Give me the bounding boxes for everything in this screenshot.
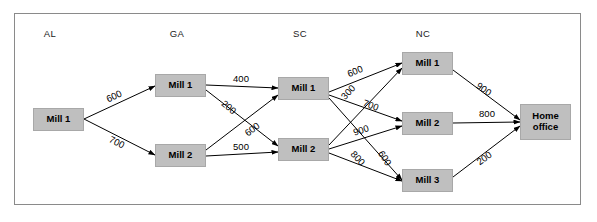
edge-nc2-home bbox=[453, 122, 520, 123]
edge-label-ga1-sc1: 400 bbox=[233, 73, 249, 84]
edge-label-ga2-sc2: 500 bbox=[233, 141, 249, 152]
node-sc-mill-1[interactable]: Mill 1 bbox=[278, 77, 329, 100]
edge-ga1-sc2 bbox=[206, 90, 278, 146]
node-sc-mill-2[interactable]: Mill 2 bbox=[278, 138, 329, 161]
edge-label-nc2-home: 800 bbox=[479, 108, 495, 119]
column-header-ga: GA bbox=[170, 28, 185, 39]
node-al-mill-1[interactable]: Mill 1 bbox=[33, 108, 84, 131]
edge-ga1-sc1 bbox=[206, 85, 278, 88]
network-diagram: ALGASCNC Mill 1Mill 1Mill 2Mill 1Mill 2M… bbox=[0, 0, 597, 222]
node-nc-mill-2[interactable]: Mill 2 bbox=[402, 112, 453, 135]
node-ga-mill-1[interactable]: Mill 1 bbox=[155, 74, 206, 97]
edge-sc1-nc1 bbox=[329, 63, 402, 92]
edge-sc1-nc3 bbox=[329, 98, 402, 180]
node-home-office[interactable]: Home office bbox=[520, 104, 571, 140]
node-nc-mill-1[interactable]: Mill 1 bbox=[402, 52, 453, 75]
column-header-sc: SC bbox=[293, 28, 307, 39]
node-nc-mill-3[interactable]: Mill 3 bbox=[402, 169, 453, 192]
column-header-nc: NC bbox=[416, 28, 431, 39]
column-header-al: AL bbox=[44, 28, 56, 39]
node-ga-mill-2[interactable]: Mill 2 bbox=[155, 144, 206, 167]
edge-ga2-sc2 bbox=[206, 152, 278, 156]
